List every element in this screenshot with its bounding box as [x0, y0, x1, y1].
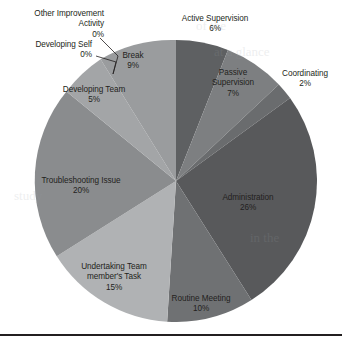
pie-label-administration-value: 26% — [209, 203, 287, 213]
pie-label-other-improvement-value: 0% — [0, 30, 104, 40]
pie-label-developing-self-name: Developing Self — [0, 40, 92, 50]
pie-label-coordinating: Coordinating 2% — [268, 69, 342, 90]
pie-label-routine-meeting-value: 10% — [155, 304, 247, 314]
pie-label-passive-supervision-name-line2: Supervision — [197, 78, 269, 88]
pie-label-other-improvement-activity: Other Improvement Activity 0% — [0, 9, 104, 40]
pie-label-troubleshooting-issue: Troubleshooting Issue 20% — [22, 176, 140, 197]
pie-label-undertaking-task-name-line1: Undertaking Team — [62, 262, 166, 272]
bottom-divider — [0, 334, 342, 336]
pie-label-active-supervision-name: Active Supervision — [155, 14, 275, 24]
pie-label-passive-supervision-name-line1: Passive — [197, 68, 269, 78]
pie-label-undertaking-task-name-line2: member's Task — [62, 272, 166, 282]
pie-label-coordinating-name: Coordinating — [268, 69, 342, 79]
pie-label-administration-name: Administration — [209, 193, 287, 203]
pie-label-developing-team-name: Developing Team — [44, 85, 144, 95]
pie-label-passive-supervision: Passive Supervision 7% — [197, 68, 269, 99]
pie-label-other-improvement-name-line1: Other Improvement — [0, 9, 104, 19]
pie-label-routine-meeting-name: Routine Meeting — [155, 294, 247, 304]
pie-label-passive-supervision-value: 7% — [197, 89, 269, 99]
pie-label-active-supervision: Active Supervision 6% — [155, 14, 275, 35]
pie-label-undertaking-team-members-task: Undertaking Team member's Task 15% — [62, 262, 166, 293]
pie-label-coordinating-value: 2% — [268, 79, 342, 89]
pie-label-administration: Administration 26% — [209, 193, 287, 214]
pie-label-troubleshooting-issue-name: Troubleshooting Issue — [22, 176, 140, 186]
pie-label-other-improvement-name-line2: Activity — [0, 19, 104, 29]
pie-label-developing-team-value: 5% — [44, 95, 144, 105]
pie-label-active-supervision-value: 6% — [155, 24, 275, 34]
pie-label-break: Break 9% — [110, 51, 156, 72]
pie-label-routine-meeting: Routine Meeting 10% — [155, 294, 247, 315]
pie-label-break-name: Break — [110, 51, 156, 61]
pie-label-break-value: 9% — [110, 61, 156, 71]
pie-chart: of the at a glance study in the Active S… — [0, 0, 342, 344]
pie-label-developing-self-value: 0% — [0, 50, 92, 60]
pie-label-undertaking-task-value: 15% — [62, 283, 166, 293]
pie-label-developing-team: Developing Team 5% — [44, 85, 144, 106]
pie-label-developing-self: Developing Self 0% — [0, 40, 92, 61]
pie-label-troubleshooting-issue-value: 20% — [22, 186, 140, 196]
